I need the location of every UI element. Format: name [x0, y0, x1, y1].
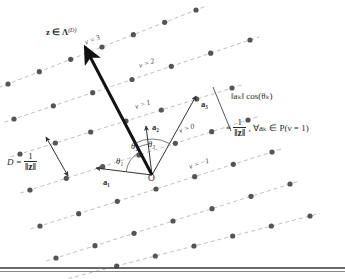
- lattice-point: [129, 77, 134, 82]
- angle-theta1-label: θ₁: [116, 157, 123, 166]
- lattice-point: [209, 206, 214, 211]
- vector-z-superscript: (D): [68, 27, 76, 33]
- lattice-point: [191, 243, 196, 248]
- projection-eq-numerator: 1: [233, 118, 246, 127]
- lattice-point: [131, 32, 136, 37]
- lattice-point: [37, 223, 42, 228]
- origin-label: O: [148, 174, 155, 184]
- vector-z-symbol: z ∈ Λ: [46, 27, 68, 37]
- spacing-lhs: D =: [7, 157, 22, 167]
- spacing-annotation: D = 1 ‖z‖: [7, 152, 37, 173]
- lattice-point: [53, 140, 58, 145]
- lattice-point: [53, 255, 58, 260]
- basis-vector-a3-label: a₃: [201, 100, 208, 109]
- lattice-point: [88, 129, 93, 134]
- projection-fraction: 1 ‖z‖: [233, 118, 246, 139]
- lattice-point: [162, 20, 167, 25]
- lattice-point: [51, 103, 56, 108]
- lattice-point: [192, 174, 197, 179]
- basis-vector-a2-label: a₂: [152, 123, 159, 132]
- vector-z-label: z ∈ Λ(D): [46, 28, 76, 37]
- lattice-point: [208, 51, 213, 56]
- hyperplane-dashed-lines: [0, 6, 320, 278]
- lattice-point: [269, 149, 274, 154]
- lattice-point: [37, 69, 42, 74]
- lattice-diagram: [0, 0, 345, 279]
- lattice-point: [248, 194, 253, 199]
- basis-vector-a₁: [96, 168, 152, 175]
- lattice-point: [173, 141, 178, 146]
- lattice-point: [99, 44, 104, 49]
- lattice-point: [307, 213, 312, 218]
- lattice-point: [76, 211, 81, 216]
- basis-vector-a1-label: a₁: [103, 178, 110, 187]
- lattice-point: [193, 7, 198, 12]
- lattice-point: [153, 253, 158, 258]
- lattice-point: [159, 107, 164, 112]
- lattice-point: [230, 233, 235, 238]
- lattice-point: [5, 81, 10, 86]
- projection-equation: = 1 ‖z‖ , ∀aₖ ∈ P(ν = 1): [226, 118, 309, 139]
- lattice-point: [229, 85, 234, 90]
- lattice-point: [169, 64, 174, 69]
- lattice-point: [64, 176, 69, 181]
- lattice-point: [170, 218, 175, 223]
- projection-eq-rhs: , ∀aₖ ∈ P(ν = 1): [249, 123, 309, 133]
- lattice-point: [131, 231, 136, 236]
- angle-theta2-label: θ₂: [131, 142, 138, 151]
- lattice-point: [11, 116, 16, 121]
- lattice-point: [231, 162, 236, 167]
- lattice-point: [247, 37, 252, 42]
- spacing-fraction: 1 ‖z‖: [24, 152, 37, 173]
- lattice-point: [287, 181, 292, 186]
- lattice-point: [269, 223, 274, 228]
- lattice-point: [115, 199, 120, 204]
- projection-eq-lhs: =: [226, 123, 231, 133]
- spacing-numerator: 1: [24, 152, 37, 161]
- spacing-denominator: ‖z‖: [24, 161, 37, 173]
- projection-eq-denominator: ‖z‖: [233, 127, 246, 139]
- angle-arc-θ₂: [138, 144, 149, 147]
- lattice-point: [209, 129, 214, 134]
- lattice-point: [92, 243, 97, 248]
- lattice-point: [68, 57, 73, 62]
- lattice-point: [90, 90, 95, 95]
- angle-theta3-label: θ₃: [148, 140, 155, 149]
- lattice-point: [27, 187, 32, 192]
- projection-expression: ‖aₖ‖ cos(θₖ): [231, 92, 273, 101]
- lattice-point: [153, 186, 158, 191]
